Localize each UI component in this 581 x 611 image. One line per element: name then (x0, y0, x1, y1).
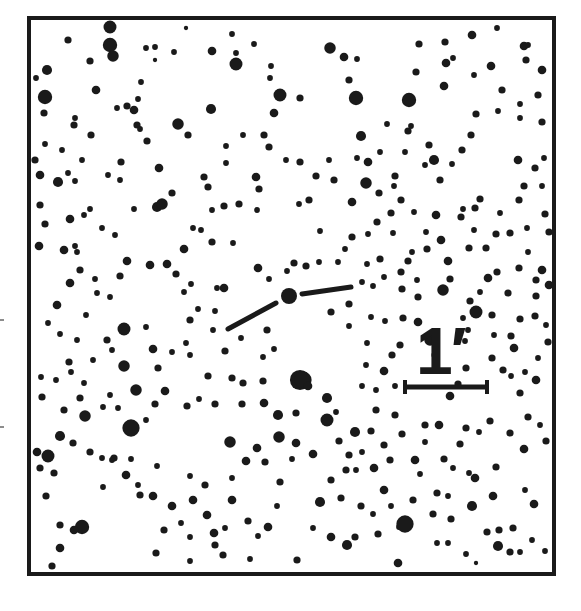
star (391, 411, 398, 418)
star (524, 413, 531, 420)
star (429, 155, 439, 165)
star (539, 183, 545, 189)
star (152, 44, 158, 50)
star (135, 482, 141, 488)
star (76, 394, 83, 401)
star (86, 57, 93, 64)
star (446, 392, 455, 401)
star (476, 429, 482, 435)
star (488, 354, 495, 361)
star (252, 173, 261, 182)
star (200, 173, 207, 180)
star (228, 374, 235, 381)
star (255, 533, 261, 539)
star (541, 155, 547, 161)
star (390, 230, 396, 236)
star (517, 101, 523, 107)
star (270, 109, 279, 118)
star (373, 387, 379, 393)
star (456, 440, 463, 447)
star (542, 437, 549, 444)
star (229, 475, 235, 481)
star (437, 284, 449, 296)
star (251, 41, 257, 47)
star (340, 53, 349, 62)
star (210, 327, 216, 333)
star (273, 410, 283, 420)
star (530, 500, 539, 509)
star (238, 400, 245, 407)
star (190, 225, 196, 231)
star (242, 457, 251, 466)
star (312, 172, 319, 179)
star (510, 344, 519, 353)
star (506, 548, 513, 555)
star (107, 294, 113, 300)
star (506, 229, 513, 236)
star (460, 206, 466, 212)
star (260, 131, 267, 138)
star (388, 503, 394, 509)
star (327, 476, 334, 483)
star (482, 244, 489, 251)
star (356, 131, 366, 141)
star (117, 177, 123, 183)
star (436, 176, 443, 183)
star (171, 49, 177, 55)
star (221, 347, 228, 354)
star (442, 59, 451, 68)
star (184, 26, 188, 30)
star (123, 102, 130, 109)
star (346, 323, 352, 329)
star (154, 364, 161, 371)
star (240, 132, 246, 138)
star (293, 556, 300, 563)
star (350, 427, 360, 437)
star (172, 118, 184, 130)
star (268, 63, 274, 69)
star (296, 201, 302, 207)
star (239, 379, 246, 386)
star (440, 82, 449, 91)
star (196, 396, 202, 402)
star (107, 392, 113, 398)
star (437, 236, 446, 245)
star (515, 264, 522, 271)
star (40, 109, 47, 116)
star (38, 393, 45, 400)
star (441, 38, 448, 45)
star (377, 149, 383, 155)
star (195, 306, 201, 312)
star (409, 496, 416, 503)
star (86, 448, 93, 455)
star (535, 355, 541, 361)
star (492, 463, 499, 470)
star (276, 478, 283, 485)
star (367, 427, 374, 434)
star (398, 430, 405, 437)
star (450, 55, 456, 61)
star (154, 463, 160, 469)
star (411, 456, 420, 465)
star (138, 79, 144, 85)
star (466, 297, 473, 304)
star (394, 559, 403, 568)
star (83, 312, 89, 318)
star (122, 471, 131, 480)
star (87, 206, 93, 212)
star (398, 285, 405, 292)
star (204, 372, 211, 379)
star (370, 283, 376, 289)
star (384, 121, 390, 127)
star (60, 406, 67, 413)
star (493, 268, 500, 275)
star (399, 314, 406, 321)
star (474, 561, 478, 565)
star (184, 131, 191, 138)
star (130, 384, 142, 396)
star (402, 149, 408, 155)
star (487, 62, 496, 71)
star (65, 358, 72, 365)
star (359, 449, 365, 455)
star (345, 451, 352, 458)
